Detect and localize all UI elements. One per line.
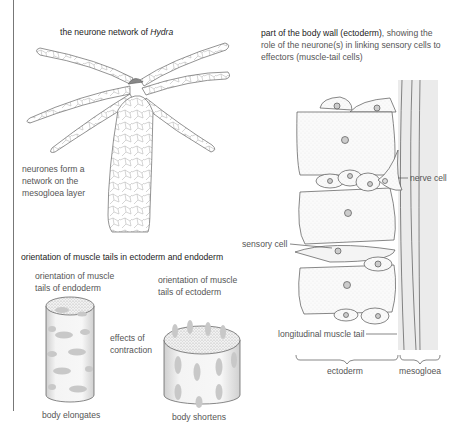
hydra-title-species: Hydra	[150, 27, 173, 37]
body-wall-illustration	[290, 80, 440, 364]
endoderm-result: body elongates	[42, 410, 100, 421]
effects-label-line-2: contraction	[110, 345, 152, 356]
hydra-annotation-line-1: neurones form a	[22, 164, 85, 175]
label-longitudinal-muscle-tail: longitudinal muscle tail	[278, 329, 364, 340]
muscle-panel-title: orientation of muscle tails in ectoderm …	[21, 252, 223, 263]
hydra-title-prefix: the neurone network of	[60, 27, 150, 37]
endoderm-label-line-2: tails of endoderm	[35, 283, 101, 294]
ectoderm-cylinder	[164, 320, 240, 408]
ectoderm-label-line-1: orientation of muscle	[158, 275, 237, 286]
body-wall-title-bold: part of the body wall (ectoderm)	[261, 28, 382, 38]
label-ectoderm: ectoderm	[327, 366, 363, 377]
hydra-annotation-line-2: network on the	[22, 176, 78, 187]
hydra-title: the neurone network of Hydra	[60, 27, 173, 38]
endoderm-label-line-1: orientation of muscle	[35, 271, 114, 282]
ectoderm-result: body shortens	[172, 412, 226, 423]
ectoderm-label-line-2: tails of ectoderm	[158, 287, 221, 298]
body-wall-title-line-2: role of the neurone(s) in linking sensor…	[261, 40, 441, 51]
label-sensory-cell: sensory cell	[242, 239, 287, 250]
label-nerve-cell: nerve cell	[410, 173, 447, 184]
diagram-canvas	[0, 0, 459, 435]
hydra-annotation-line-3: mesogloea layer	[22, 188, 85, 199]
effects-label-line-1: effects of	[110, 333, 145, 344]
hydra-illustration	[27, 43, 230, 232]
endoderm-cylinder	[46, 297, 94, 402]
label-mesogloea: mesogloea	[399, 366, 441, 377]
body-wall-title-rest: , showing the	[382, 28, 433, 38]
body-wall-title-line-3: effectors (muscle-tail cells)	[261, 52, 363, 63]
body-wall-title-line-1: part of the body wall (ectoderm), showin…	[261, 28, 433, 39]
